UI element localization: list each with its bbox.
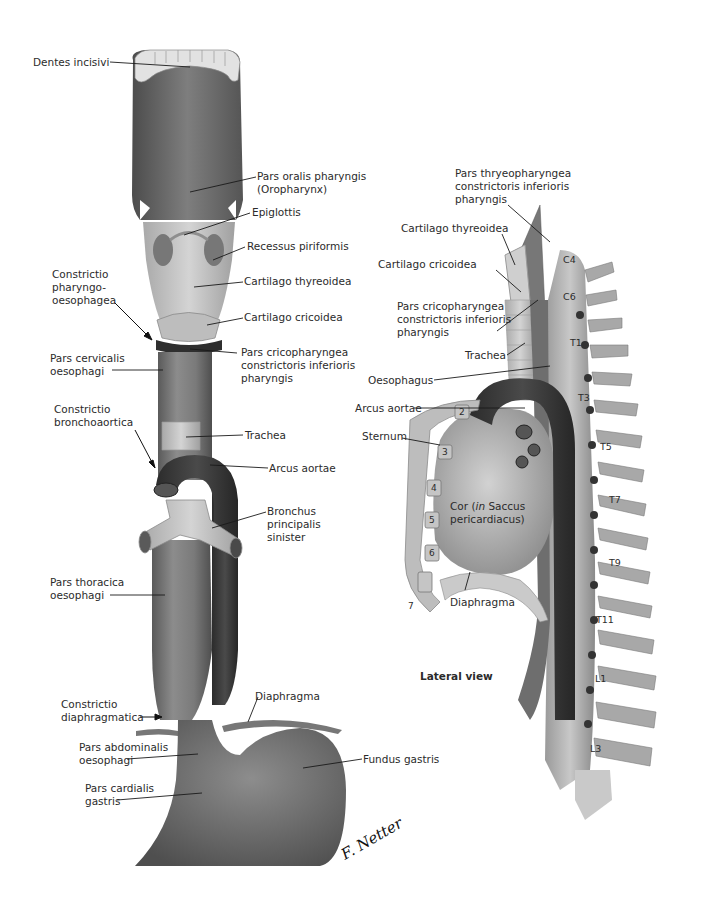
vertebra-c6: C6 [563, 291, 576, 304]
label-pars-cardialis-1: Pars cardialis [85, 782, 154, 795]
vertebra-t3: T3 [578, 392, 590, 405]
label-cor: Cor (in Saccus [450, 500, 525, 513]
label-fundus-gastris: Fundus gastris [363, 753, 439, 766]
label-dentes-incisivi: Dentes incisivi [33, 56, 109, 69]
label-cor-a: Cor ( [450, 500, 476, 512]
label-pars-thoracica-2: oesophagi [50, 589, 104, 602]
rib-6: 6 [429, 547, 435, 560]
vertebra-l1: L1 [595, 673, 606, 686]
vertebra-t5: T5 [600, 441, 612, 454]
label-cartilago-thyreoidea-lateral: Cartilago thyreoidea [401, 222, 508, 235]
label-pars-cricopharyngea-1: Pars cricopharyngea [241, 346, 348, 359]
label-pars-thoracica-1: Pars thoracica [50, 576, 124, 589]
vertebra-t9: T9 [609, 557, 621, 570]
label-constrictio-bronchoaortica-2: bronchoaortica [54, 416, 133, 429]
label-diaphragma-lateral: Diaphragma [450, 596, 515, 609]
label-pars-abdominalis-1: Pars abdominalis [79, 741, 168, 754]
label-trachea: Trachea [245, 429, 286, 442]
label-pars-thyreopharyngea-2: constrictoris inferioris [455, 180, 569, 193]
label-pars-cricopharyngea-lateral-3: pharyngis [397, 326, 449, 339]
anatomy-illustration: F. Netter [0, 0, 705, 913]
label-pars-oralis-pharyngis: Pars oralis pharyngis [257, 170, 366, 183]
lateral-figure [405, 205, 656, 820]
label-cartilago-cricoidea-lateral: Cartilago cricoidea [378, 258, 477, 271]
vertebra-t11: T11 [596, 614, 614, 627]
label-pars-thyreopharyngea-3: pharyngis [455, 193, 507, 206]
label-bronchus-1: Bronchus [267, 505, 316, 518]
label-pars-thyreopharyngea-1: Pars thryeopharyngea [455, 167, 571, 180]
label-constrictio-bronchoaortica-1: Constrictio [54, 403, 110, 416]
label-pericardiacus: pericardiacus) [450, 513, 525, 526]
label-pars-cricopharyngea-lateral-2: constrictoris inferioris [397, 313, 511, 326]
label-pars-cricopharyngea-lateral-1: Pars cricopharyngea [397, 300, 504, 313]
label-pars-abdominalis-2: oesophagi [79, 754, 133, 767]
rib-4: 4 [431, 482, 437, 495]
label-pars-cervicalis-1: Pars cervicalis [50, 352, 125, 365]
label-epiglottis: Epiglottis [252, 206, 301, 219]
label-diaphragma-anterior: Diaphragma [255, 690, 320, 703]
label-constrictio-pharyngo-1: Constrictio [52, 268, 108, 281]
vertebra-t1: T1 [570, 337, 582, 350]
label-constrictio-pharyngo-2: pharyngo- [52, 281, 106, 294]
label-cor-c: Saccus [485, 500, 525, 512]
label-cartilago-cricoidea: Cartilago cricoidea [244, 311, 343, 324]
label-pars-cardialis-2: gastris [85, 795, 120, 808]
rib-7: 7 [408, 600, 414, 613]
vertebra-c4: C4 [563, 254, 576, 267]
artist-signature: F. Netter [337, 814, 406, 864]
label-sternum: Sternum [362, 430, 407, 443]
label-cor-in: in [476, 500, 486, 512]
label-cartilago-thyreoidea: Cartilago thyreoidea [244, 275, 351, 288]
label-bronchus-2: principalis [267, 518, 321, 531]
label-constrictio-pharyngo-3: oesophagea [52, 294, 116, 307]
label-arcus-aortae-lateral: Arcus aortae [355, 402, 422, 415]
label-recessus-piriformis: Recessus piriformis [247, 240, 349, 253]
label-bronchus-3: sinister [267, 531, 305, 544]
label-arcus-aortae: Arcus aortae [269, 462, 336, 475]
rib-3: 3 [442, 446, 448, 459]
label-constrictio-diaphragmatica-2: diaphragmatica [61, 711, 144, 724]
lateral-view-title: Lateral view [420, 670, 493, 683]
vertebra-l3: L3 [590, 743, 601, 756]
rib-2: 2 [459, 406, 465, 419]
label-constrictio-diaphragmatica-1: Constrictio [61, 698, 117, 711]
label-oropharynx: (Oropharynx) [257, 183, 327, 196]
label-oesophagus-lateral: Oesophagus [368, 374, 433, 387]
label-trachea-lateral: Trachea [465, 349, 506, 362]
label-pars-cricopharyngea-2: constrictoris inferioris [241, 359, 355, 372]
rib-5: 5 [429, 514, 435, 527]
label-pars-cricopharyngea-3: pharyngis [241, 372, 293, 385]
vertebra-t7: T7 [609, 494, 621, 507]
label-pars-cervicalis-2: oesophagi [50, 365, 104, 378]
